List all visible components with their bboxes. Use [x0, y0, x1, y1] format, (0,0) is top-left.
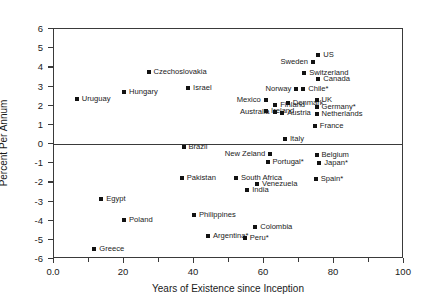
data-point: [315, 153, 319, 157]
zero-reference-line: [54, 144, 402, 145]
data-point: [315, 112, 319, 116]
x-axis-tick: [53, 258, 54, 263]
data-point-label: Colombia: [260, 223, 292, 231]
data-point: [294, 87, 298, 91]
data-point: [280, 111, 284, 115]
data-point-label: Spain*: [321, 175, 343, 183]
data-point-label: Chile*: [308, 85, 328, 93]
data-point-label: Sweden: [281, 58, 308, 66]
data-point-label: New Zeland: [225, 150, 266, 158]
x-axis-tick: [403, 258, 404, 263]
data-point-label: Egypt: [106, 195, 125, 203]
data-point: [264, 98, 268, 102]
data-point-label: Pakistan: [187, 174, 216, 182]
data-point-label: Canada: [323, 75, 350, 83]
data-point: [186, 86, 190, 90]
x-axis-tick: [193, 258, 194, 263]
data-point: [283, 137, 287, 141]
data-point: [147, 70, 151, 74]
scatter-chart-figure: Percent Per Annum Years of Existence sin…: [0, 0, 428, 306]
data-point: [122, 218, 126, 222]
y-axis-tick-label: -1: [3, 157, 43, 168]
y-axis-tick-label: 4: [3, 61, 43, 72]
x-axis-tick-label: 100: [395, 266, 411, 277]
y-axis-tick-label: -3: [3, 195, 43, 206]
data-point: [122, 90, 126, 94]
data-point: [206, 234, 210, 238]
data-point: [180, 176, 184, 180]
x-axis-tick-label: 40: [188, 266, 199, 277]
x-axis-minor-tick: [298, 258, 299, 262]
data-point-label: Greece: [99, 245, 124, 253]
x-axis-minor-tick: [88, 258, 89, 262]
data-point-label: US: [323, 51, 334, 59]
x-axis-tick-label: 20: [118, 266, 129, 277]
data-point: [182, 145, 186, 149]
data-point: [192, 213, 196, 217]
data-point-label: Norway: [265, 85, 291, 93]
plot-area: UruguayHungaryCzechoslovakiaIsraelUSSwed…: [53, 28, 403, 258]
data-point: [301, 87, 305, 91]
data-point-label: Portugal*: [273, 158, 304, 166]
data-point: [266, 160, 270, 164]
y-axis-tick-label: -4: [3, 214, 43, 225]
data-point-label: Israel: [193, 84, 212, 92]
data-point-label: Peru*: [250, 234, 269, 242]
data-point: [253, 225, 257, 229]
y-axis-tick-label: 3: [3, 80, 43, 91]
data-point: [316, 77, 320, 81]
data-point-label: Netherlands: [322, 110, 363, 118]
data-point-label: France: [320, 122, 344, 130]
data-point: [316, 53, 320, 57]
y-axis-tick-label: 6: [3, 23, 43, 34]
data-point-label: Japan*: [324, 159, 348, 167]
y-axis-tick-label: -6: [3, 253, 43, 264]
data-point: [273, 110, 277, 114]
data-point: [315, 105, 319, 109]
data-point: [311, 60, 315, 64]
data-point-label: Mexico: [237, 96, 261, 104]
data-point-label: Italy: [290, 135, 304, 143]
y-axis-tick-label: 2: [3, 99, 43, 110]
x-axis-tick-label: 60: [258, 266, 269, 277]
data-point: [314, 177, 318, 181]
data-point-label: Philippines: [199, 211, 236, 219]
data-point: [302, 71, 306, 75]
data-point: [234, 176, 238, 180]
x-axis-label: Years of Existence since Inception: [152, 283, 304, 294]
y-axis-tick-label: -2: [3, 176, 43, 187]
x-axis-tick: [263, 258, 264, 263]
x-axis-minor-tick: [228, 258, 229, 262]
data-point: [268, 152, 272, 156]
data-point: [317, 161, 321, 165]
y-axis-tick-label: 0: [3, 138, 43, 149]
data-point-label: Brazil: [189, 143, 208, 151]
data-point: [92, 247, 96, 251]
data-point-label: Czechoslovakia: [154, 68, 207, 76]
data-point: [99, 197, 103, 201]
x-axis-tick-label: 0.0: [46, 266, 59, 277]
x-axis-minor-tick: [158, 258, 159, 262]
data-point-label: Austria: [287, 109, 311, 117]
x-axis-tick-label: 80: [328, 266, 339, 277]
data-point-label: Hungary: [129, 88, 158, 96]
data-point: [245, 188, 249, 192]
x-axis-minor-tick: [368, 258, 369, 262]
data-point-label: Uruguay: [82, 95, 111, 103]
x-axis-tick: [333, 258, 334, 263]
data-point-label: India: [252, 186, 268, 194]
y-axis-tick-label: 1: [3, 118, 43, 129]
data-point: [243, 236, 247, 240]
y-axis-tick-label: -5: [3, 233, 43, 244]
data-point-label: Australia: [240, 108, 270, 116]
data-point-label: Poland: [129, 216, 153, 224]
y-axis-tick-label: 5: [3, 42, 43, 53]
data-point: [313, 124, 317, 128]
data-point: [75, 97, 79, 101]
x-axis-tick: [123, 258, 124, 263]
